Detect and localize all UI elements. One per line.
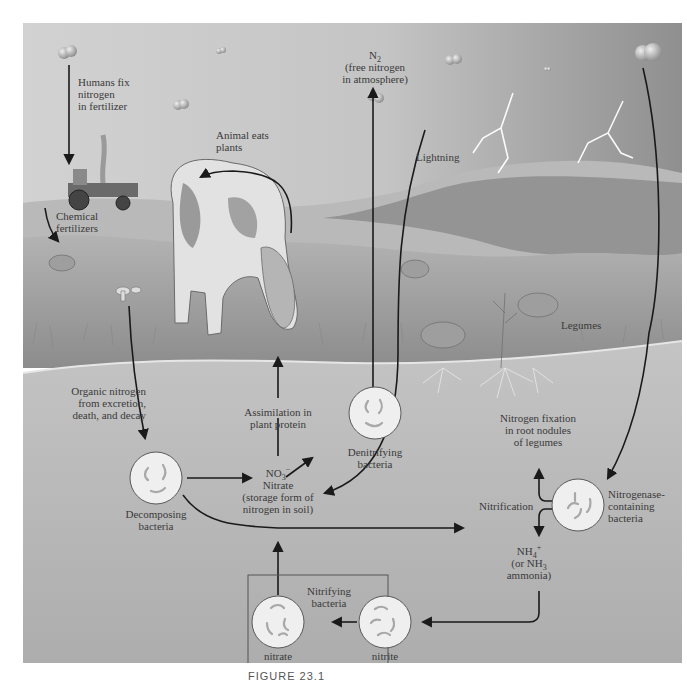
label-humans-fix-nitrogen: Humans fixnitrogenin fertilizer xyxy=(78,76,130,112)
nitrite-bacteria-circle xyxy=(359,596,411,648)
grassland xyxy=(23,235,682,368)
label-nitrification: Nitrification xyxy=(479,500,533,512)
nitrogen-cycle-illustration xyxy=(23,23,682,663)
label-nitrifying-bacteria: Nitrifyingbacteria xyxy=(294,585,364,609)
label-nitrate: NO3− Nitrate(storage form ofnitrogen in … xyxy=(233,467,323,515)
label-decomposing-bacteria: Decomposingbacteria xyxy=(116,508,196,532)
label-n2-atmosphere: N2 (free nitrogenin atmosphere) xyxy=(335,49,415,85)
label-lightning: Lightning xyxy=(416,151,459,163)
label-chemical-fertilizers: Chemicalfertilizers xyxy=(56,210,98,234)
denitrifying-bacteria-circle xyxy=(349,387,401,439)
label-animal-eats-plants: Animal eatsplants xyxy=(216,129,269,153)
label-denitrifying-bacteria: Denitrifyingbacteria xyxy=(335,446,415,470)
label-nitrogen-fixation: Nitrogen fixationin root nodulesof legum… xyxy=(478,412,598,448)
label-nitrate-bacteria: nitratebacteria xyxy=(248,650,308,663)
label-organic-nitrogen: Organic nitrogenfrom excretion,death, an… xyxy=(23,385,146,421)
nitrogen-cycle-figure: Humans fixnitrogenin fertilizer Chemical… xyxy=(23,23,682,663)
label-legumes: Legumes xyxy=(561,319,601,331)
label-assimilation-plant-protein: Assimilation inplant protein xyxy=(236,406,320,430)
label-nitrite-bacteria: nitritebacteria xyxy=(355,650,415,663)
figure-caption: FIGURE 23.1 xyxy=(248,665,325,680)
label-nitrogenase-bacteria: Nitrogenase-containingbacteria xyxy=(608,488,665,524)
decomposing-bacteria-circle xyxy=(130,452,182,504)
label-ammonium: NH4+ (or NH3 ammonia) xyxy=(499,545,559,581)
